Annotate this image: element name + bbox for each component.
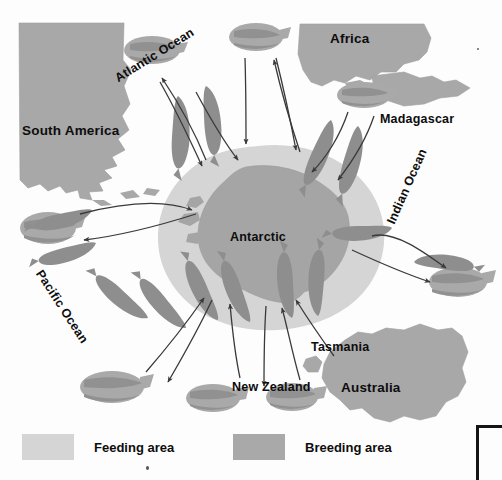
whale-migration-map: South America Africa Madagascar Antarcti… (0, 0, 502, 480)
map-label-south-america: South America (22, 124, 119, 138)
map-label-australia: Australia (341, 381, 401, 395)
legend-swatch-feeding-area (22, 434, 74, 460)
scan-speck-artifact (146, 466, 149, 470)
landmass-tasmania (303, 356, 322, 372)
legend-item-feeding-area: Feeding area (22, 434, 174, 460)
map-legend: Feeding area Breeding area (0, 432, 502, 472)
map-label-tasmania: Tasmania (311, 341, 369, 354)
scan-speck-artifact (477, 48, 479, 50)
map-label-madagascar: Madagascar (380, 113, 454, 126)
legend-label-breeding-area: Breeding area (305, 440, 392, 455)
legend-label-feeding-area: Feeding area (94, 440, 174, 455)
breeding-area-south-pacific (80, 371, 154, 403)
map-label-new-zealand: New Zealand (232, 381, 311, 394)
legend-item-breeding-area: Breeding area (233, 434, 392, 460)
legend-swatch-breeding-area (233, 434, 285, 460)
scan-edge-artifact (476, 425, 502, 480)
breeding-area-indian-east (429, 267, 496, 297)
map-label-africa: Africa (330, 32, 369, 46)
map-label-antarctic: Antarctic (230, 231, 286, 244)
landmass-australia (322, 324, 468, 422)
breeding-area-atlantic-north (229, 23, 291, 51)
